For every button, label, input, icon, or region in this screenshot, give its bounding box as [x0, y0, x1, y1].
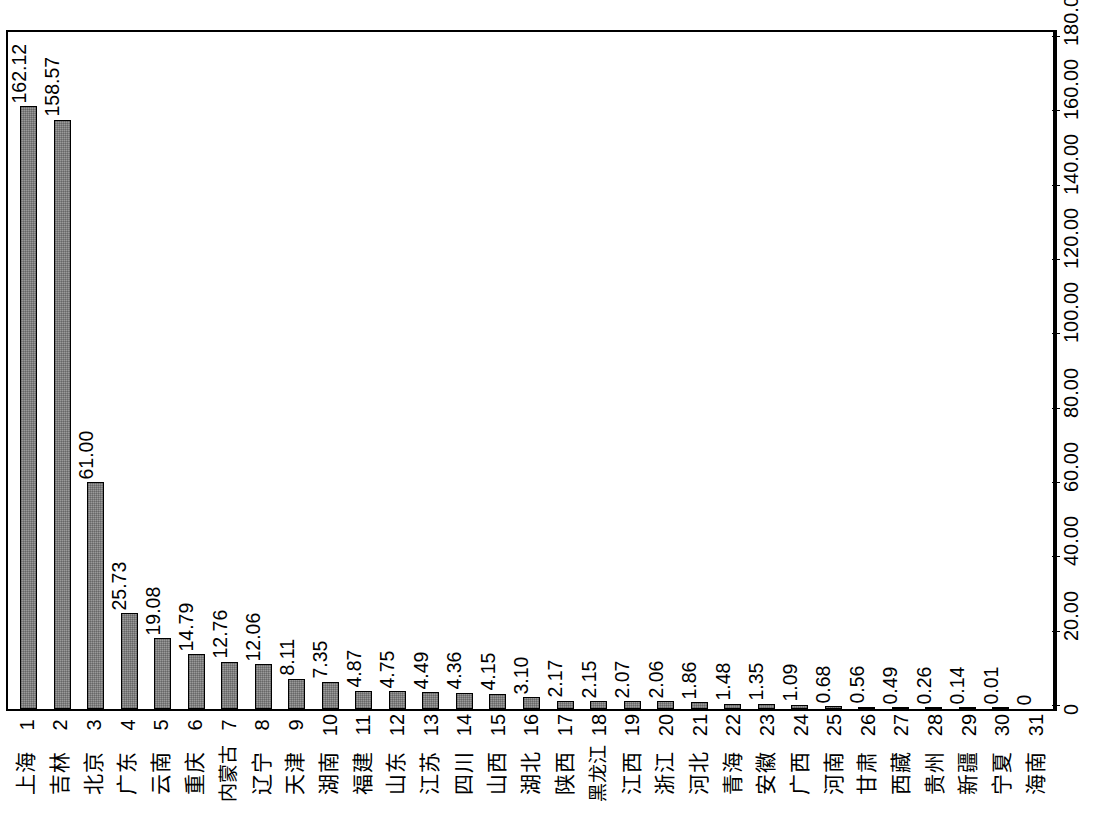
bar-value-label: 0.26 — [914, 666, 934, 704]
category-rank-cell: 15 — [481, 713, 515, 755]
value-axis-tick-label: 0 — [1061, 704, 1081, 715]
value-axis-tick — [1052, 408, 1060, 409]
bar-value-label: 7.35 — [311, 641, 331, 679]
category-rank-cell: 2 — [44, 713, 78, 755]
value-axis-tick — [1052, 556, 1060, 557]
bar-value-label: 12.76 — [210, 610, 230, 659]
category-rank-cell: 10 — [313, 713, 347, 755]
bar-item: 8.11 — [280, 32, 314, 709]
bar-value-label: 2.07 — [613, 660, 633, 698]
value-axis-tick-label: 60.00 — [1061, 442, 1081, 492]
bar: 2.15 — [590, 701, 607, 709]
category-rank-label: 7 — [219, 719, 239, 730]
bar-item: 0.68 — [816, 32, 850, 709]
bar-value-label: 0.68 — [814, 666, 834, 704]
bar: 4.87 — [355, 691, 372, 709]
bar: 1.86 — [691, 702, 708, 709]
category-rank-cell: 29 — [952, 713, 986, 755]
bar-value-label: 0.01 — [981, 666, 1001, 704]
category-rank-cell: 16 — [515, 713, 549, 755]
category-rank-cell: 12 — [380, 713, 414, 755]
category-rank-label: 13 — [421, 714, 441, 736]
bar: 1.35 — [758, 704, 775, 709]
category-rank-cell: 28 — [918, 713, 952, 755]
category-rank-label: 16 — [521, 714, 541, 736]
value-axis-tick — [1052, 259, 1060, 260]
bar: 0.26 — [925, 707, 942, 709]
category-rank-cell: 6 — [178, 713, 212, 755]
category-rank-label: 29 — [959, 714, 979, 736]
category-rank-cell: 30 — [986, 713, 1020, 755]
bar: 25.73 — [121, 613, 138, 709]
bar-value-label: 1.48 — [713, 663, 733, 701]
category-rank-label: 2 — [50, 719, 70, 730]
bar-item: 12.06 — [247, 32, 281, 709]
category-rank-cell: 17 — [548, 713, 582, 755]
category-rank-cell: 20 — [649, 713, 683, 755]
bar-value-label: 4.75 — [378, 650, 398, 688]
bar-item: 2.06 — [649, 32, 683, 709]
bar: 3.10 — [523, 697, 540, 709]
value-axis-tick — [1052, 110, 1060, 111]
bar-value-label: 1.09 — [780, 664, 800, 702]
bar-value-label: 61.00 — [76, 430, 96, 479]
value-axis-tick — [1052, 631, 1060, 632]
category-rank-cell: 5 — [145, 713, 179, 755]
value-axis-tick-label: 80.00 — [1061, 368, 1081, 418]
bar-series: 162.12158.5761.0025.7319.0814.7912.7612.… — [8, 32, 1053, 709]
category-rank-label: 31 — [1026, 714, 1046, 736]
bar: 162.12 — [20, 106, 37, 709]
category-rank-label: 21 — [690, 714, 710, 736]
category-rank-cell: 9 — [279, 713, 313, 755]
category-rank-cell: 31 — [1019, 713, 1053, 755]
bar-item: 0.56 — [850, 32, 884, 709]
category-rank-label: 12 — [387, 714, 407, 736]
bar-value-label: 4.87 — [344, 650, 364, 688]
category-rank-label: 26 — [858, 714, 878, 736]
category-rank-label: 15 — [488, 714, 508, 736]
value-axis-line — [1055, 30, 1057, 711]
category-name-label: 海南 — [1025, 751, 1047, 795]
bar: 14.79 — [188, 654, 205, 709]
category-rank-cell: 3 — [77, 713, 111, 755]
plot-area: 162.12158.5761.0025.7319.0814.7912.7612.… — [6, 30, 1055, 711]
bar-value-label: 4.15 — [478, 653, 498, 691]
bar: 19.08 — [154, 638, 171, 709]
value-axis-tick-label: 160.00 — [1061, 59, 1081, 120]
bar: 2.07 — [624, 701, 641, 709]
bar-item: 3.10 — [515, 32, 549, 709]
category-rank-label: 14 — [454, 714, 474, 736]
bar-value-label: 0.14 — [948, 666, 968, 704]
bar-value-label: 158.57 — [43, 57, 63, 117]
bar: 4.36 — [456, 693, 473, 709]
category-rank-cell: 1 — [10, 713, 44, 755]
bar-item: 1.35 — [749, 32, 783, 709]
bar: 12.76 — [221, 662, 238, 709]
bar: 0.01 — [992, 707, 1009, 709]
bar-value-label: 12.06 — [244, 612, 264, 661]
category-rank-label: 30 — [992, 714, 1012, 736]
bar: 1.48 — [724, 704, 741, 710]
bar-value-label: 2.06 — [646, 660, 666, 698]
bar: 2.06 — [657, 701, 674, 709]
category-rank-label: 11 — [353, 715, 373, 736]
bar-item: 162.12 — [12, 32, 46, 709]
bar: 158.57 — [54, 120, 71, 709]
bar: 0.68 — [825, 706, 842, 709]
bar-value-label: 25.73 — [110, 562, 130, 611]
category-rank-label: 8 — [252, 719, 272, 730]
category-rank-cell: 23 — [750, 713, 784, 755]
category-rank-label: 9 — [286, 719, 306, 730]
bar: 0.49 — [892, 707, 909, 709]
bar-item: 4.49 — [414, 32, 448, 709]
bar-value-label: 4.49 — [411, 651, 431, 689]
category-rank-label: 6 — [185, 719, 205, 730]
category-rank-cell: 13 — [414, 713, 448, 755]
category-rank-cell: 11 — [346, 713, 380, 755]
value-axis-tick-label: 120.00 — [1061, 208, 1081, 269]
bar-value-label: 4.36 — [445, 652, 465, 690]
bar-item: 0.26 — [917, 32, 951, 709]
category-rank-cell: 14 — [447, 713, 481, 755]
chart-page: 162.12158.5761.0025.7319.0814.7912.7612.… — [0, 0, 1104, 831]
bar: 2.17 — [557, 701, 574, 709]
